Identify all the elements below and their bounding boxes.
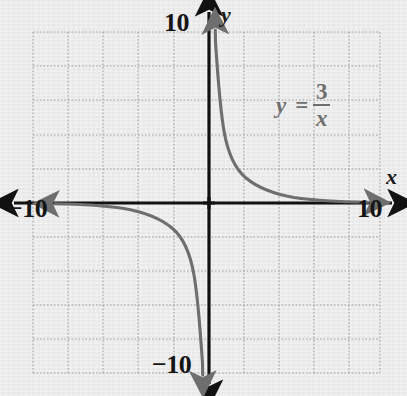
equation-annotation: y = 3 x	[276, 80, 330, 130]
y-axis-min-tick-label: −10	[152, 352, 191, 378]
equation-equals-sign: =	[295, 94, 308, 117]
x-axis-max-tick-label: 10	[357, 196, 382, 222]
graph-figure: 10 −10 −10 10 y x y = 3 x	[0, 0, 407, 396]
equation-numerator: 3	[314, 80, 330, 104]
y-axis-name-label: y	[221, 4, 231, 26]
plot-canvas	[0, 0, 407, 396]
equation-fraction: 3 x	[313, 80, 330, 130]
x-axis-min-tick-label: −10	[8, 196, 47, 222]
y-axis-max-tick-label: 10	[164, 10, 189, 36]
equation-variable: y	[276, 94, 286, 117]
x-axis-name-label: x	[386, 166, 397, 188]
equation-denominator: x	[314, 106, 330, 130]
